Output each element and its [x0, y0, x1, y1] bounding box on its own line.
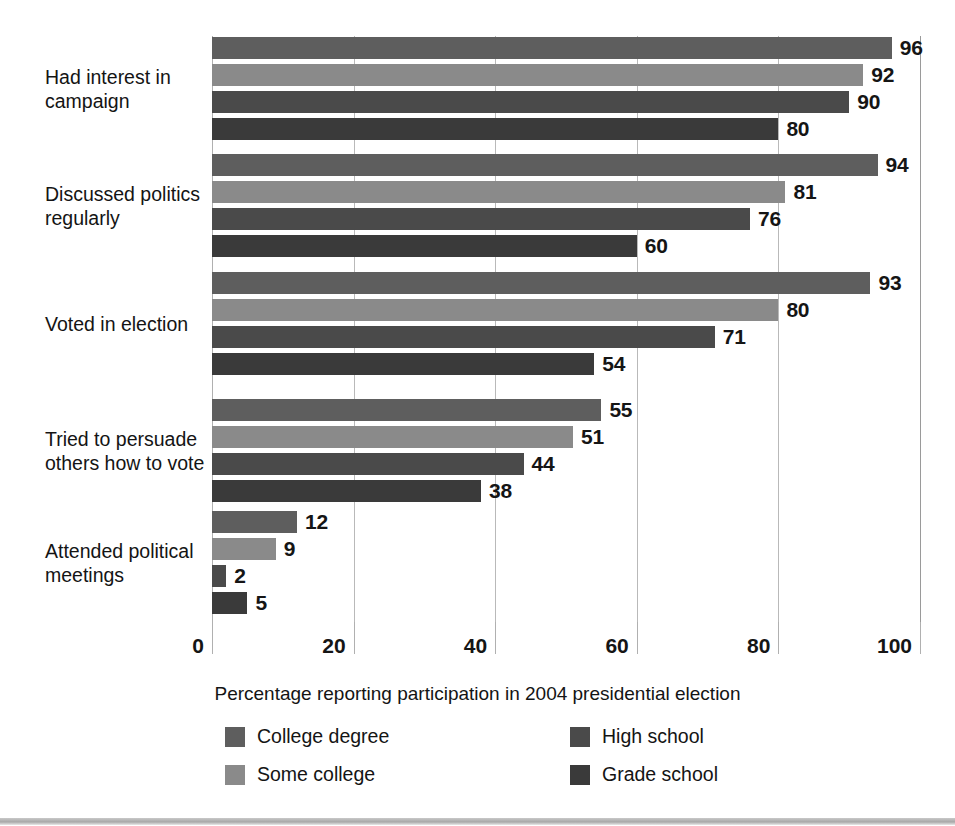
bar-row: 9: [212, 538, 920, 560]
bar-row: 71: [212, 326, 920, 348]
bar-value-label: 44: [532, 452, 555, 476]
bar-value-label: 9: [284, 537, 295, 561]
bar-row: 12: [212, 511, 920, 533]
bar-row: 81: [212, 181, 920, 203]
bar: [212, 299, 778, 321]
bar-row: 90: [212, 91, 920, 113]
bar-value-label: 93: [878, 271, 901, 295]
gridline-100: [920, 36, 921, 622]
bar: [212, 181, 785, 203]
category-label-line: Discussed politics: [45, 182, 205, 206]
bar-group: 93807154: [212, 272, 920, 380]
bar-row: 2: [212, 565, 920, 587]
tick-label-60: 60: [605, 634, 636, 658]
tick-mark-80: [778, 622, 779, 654]
bar-row: 76: [212, 208, 920, 230]
category-label-line: Voted in election: [45, 312, 205, 336]
category-label: Discussed politicsregularly: [45, 182, 205, 230]
category-label: Attended politicalmeetings: [45, 539, 205, 587]
bar-value-label: 54: [602, 352, 625, 376]
bar: [212, 208, 750, 230]
bar: [212, 511, 297, 533]
bar-row: 54: [212, 353, 920, 375]
bar-value-label: 92: [871, 63, 894, 87]
bar: [212, 538, 276, 560]
tick-mark-20: [354, 622, 355, 654]
bar: [212, 353, 594, 375]
bar-row: 55: [212, 399, 920, 421]
bar-row: 44: [212, 453, 920, 475]
bottom-rule: [0, 818, 955, 825]
bar: [212, 154, 878, 176]
bar-value-label: 90: [857, 90, 880, 114]
category-label-line: meetings: [45, 563, 205, 587]
bar: [212, 91, 849, 113]
bar-row: 92: [212, 64, 920, 86]
bar-value-label: 12: [305, 510, 328, 534]
legend-label: College degree: [257, 725, 389, 748]
bar-value-label: 71: [723, 325, 746, 349]
bar-row: 60: [212, 235, 920, 257]
bar: [212, 235, 637, 257]
x-axis-title: Percentage reporting participation in 20…: [0, 683, 955, 705]
legend-swatch-icon: [570, 765, 590, 785]
plot-area: 9692908094817660938071545551443812925: [212, 36, 920, 622]
tick-mark-60: [637, 622, 638, 654]
bar-value-label: 5: [255, 591, 266, 615]
tick-label-0: 0: [192, 634, 212, 658]
bar-value-label: 60: [645, 234, 668, 258]
bar: [212, 480, 481, 502]
bar: [212, 453, 524, 475]
legend-item: College degree: [225, 725, 389, 748]
bar: [212, 399, 601, 421]
legend-swatch-icon: [570, 727, 590, 747]
bar-row: 38: [212, 480, 920, 502]
tick-mark-0: [212, 622, 213, 654]
category-label-line: campaign: [45, 89, 205, 113]
tick-mark-100: [920, 622, 921, 654]
bar: [212, 326, 715, 348]
category-label-line: regularly: [45, 206, 205, 230]
bar-group: 12925: [212, 511, 920, 619]
bar: [212, 592, 247, 614]
tick-label-20: 20: [322, 634, 353, 658]
bar-group: 94817660: [212, 154, 920, 262]
bar: [212, 37, 892, 59]
bar-value-label: 38: [489, 479, 512, 503]
bar-row: 80: [212, 118, 920, 140]
tick-label-100: 100: [877, 634, 920, 658]
legend-swatch-icon: [225, 727, 245, 747]
x-axis-ticks: 020406080100: [212, 622, 920, 668]
bar-value-label: 94: [886, 153, 909, 177]
bar-value-label: 96: [900, 36, 923, 60]
legend-label: Grade school: [602, 763, 718, 786]
bar-value-label: 2: [234, 564, 245, 588]
bar: [212, 272, 870, 294]
legend-item: Some college: [225, 763, 375, 786]
bar-row: 94: [212, 154, 920, 176]
bar: [212, 565, 226, 587]
legend-item: High school: [570, 725, 704, 748]
bar-value-label: 80: [786, 117, 809, 141]
legend-label: Some college: [257, 763, 375, 786]
chart-legend: College degreeSome collegeHigh schoolGra…: [225, 725, 925, 795]
bar: [212, 426, 573, 448]
bar-row: 96: [212, 37, 920, 59]
bar-value-label: 76: [758, 207, 781, 231]
bar-value-label: 55: [609, 398, 632, 422]
category-label-line: Attended political: [45, 539, 205, 563]
category-label-line: Had interest in: [45, 65, 205, 89]
bar: [212, 64, 863, 86]
bar-row: 93: [212, 272, 920, 294]
category-label: Had interest incampaign: [45, 65, 205, 113]
tick-label-80: 80: [747, 634, 778, 658]
bar-row: 80: [212, 299, 920, 321]
category-label-line: others how to vote: [45, 451, 205, 475]
tick-label-40: 40: [464, 634, 495, 658]
category-label: Voted in election: [45, 312, 205, 336]
category-label: Tried to persuadeothers how to vote: [45, 427, 205, 475]
bar-group: 96929080: [212, 37, 920, 145]
bar-row: 51: [212, 426, 920, 448]
bar-chart-figure: 9692908094817660938071545551443812925 Ha…: [0, 0, 955, 826]
bar-row: 5: [212, 592, 920, 614]
